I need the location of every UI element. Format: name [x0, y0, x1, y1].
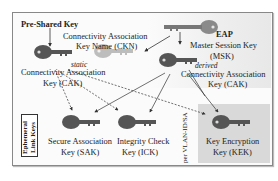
key-cak-eap-icon [159, 53, 197, 67]
key-sak-icon [62, 115, 100, 129]
label-per-vlan: per VLAN-ID/SA [181, 112, 189, 163]
label-cak-left-1: Connectivity Association [21, 68, 105, 78]
label-eap: EAP [216, 30, 233, 40]
label-sak-1: Secure Association [48, 137, 112, 147]
key-ick-icon [118, 115, 156, 129]
label-ckn-1: Connectivity Association [63, 32, 147, 42]
label-ephemeral: Ephemeral Link Keys [22, 117, 37, 158]
label-kek-1: Key Encryption [206, 137, 259, 147]
label-ick-2: Key (ICK) [122, 148, 158, 158]
label-msk-1: Master Session Key [190, 41, 257, 51]
key-kek-icon [212, 115, 250, 129]
label-kek-2: Key (KEK) [213, 148, 252, 158]
label-psk: Pre-Shared Key [21, 20, 78, 30]
label-sak-2: Key (SAK) [61, 148, 99, 158]
key-msk-icon [164, 20, 218, 34]
label-cak-left-2: Key (CAK) [43, 79, 82, 89]
ephemeral-link-keys-box: Ephemeral Link Keys [21, 114, 38, 157]
label-ick-1: Integrity Check [117, 137, 169, 147]
label-ckn-2: Key Name (CKN) [76, 42, 137, 52]
key-psk-cak-icon [34, 45, 72, 59]
label-cak-right-1: Connectivity Association [181, 70, 265, 80]
label-cak-right-2: Key (CAK) [208, 80, 247, 90]
